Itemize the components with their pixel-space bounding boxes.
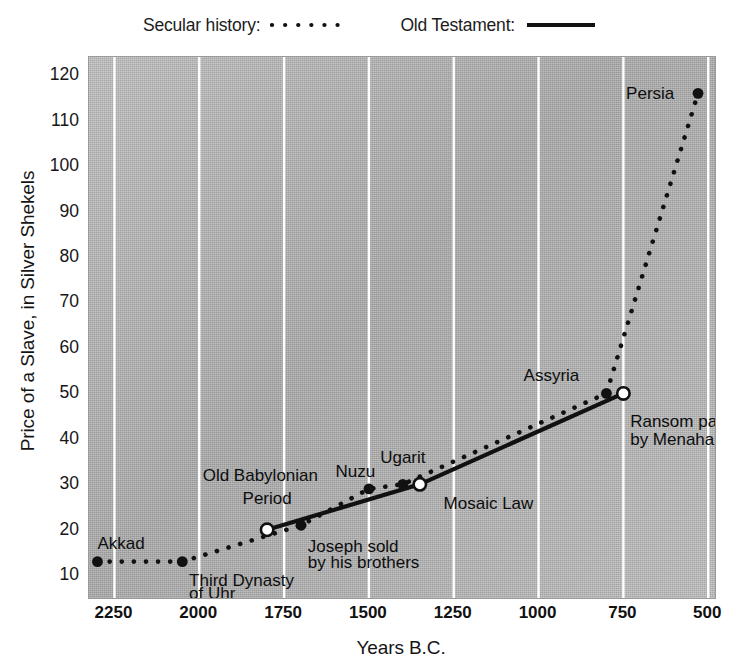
annotation-label: of Uhr [189,583,235,599]
x-tick-label: 2250 [95,603,133,623]
legend-swatch-solid-icon [525,20,597,30]
x-tick-label: 750 [608,603,636,623]
annotation-label: Persia [626,83,674,104]
data-point-filled [92,556,103,567]
x-tick-label: 2000 [179,603,217,623]
chart-root: Secular history: Old Testament: Price of… [0,0,740,672]
annotation-label: Nuzu [336,461,376,482]
x-tick-label: 1250 [434,603,472,623]
annotation-label: Period [243,488,292,509]
data-point-open [617,387,629,399]
y-tick-label: 40 [10,427,88,448]
chart-legend: Secular history: Old Testament: [0,10,740,40]
y-tick-label: 70 [10,291,88,312]
y-tick-label: 120 [10,64,88,85]
x-axis-title: Years B.C. [88,637,714,659]
y-tick-label: 30 [10,473,88,494]
data-point-filled [177,556,188,567]
legend-item-old-testament: Old Testament: [400,15,597,36]
plot-area: AkkadThird Dynastyof UhrOld BabylonianPe… [88,56,716,599]
plot-graphics [89,57,715,598]
data-point-open [414,478,426,490]
y-tick-label: 10 [10,564,88,585]
annotation-label: Mosaic Law [444,493,534,514]
y-tick-label: 110 [10,109,88,130]
y-tick-label: 20 [10,518,88,539]
legend-swatch-dotted-icon [270,20,342,30]
annotation-label: Old Babylonian [203,465,318,486]
x-tick-label: 1500 [349,603,387,623]
y-tick-label: 80 [10,246,88,267]
annotation-label: Ugarit [380,447,425,468]
y-tick-label: 100 [10,155,88,176]
annotation-label: by Menaham [630,429,716,450]
annotation-label: Assyria [524,365,580,386]
annotation-label: by his brothers [308,552,420,573]
data-point-open [261,524,273,536]
x-tick-label: 500 [693,603,721,623]
annotation-label: Akkad [97,533,144,554]
legend-item-secular-history: Secular history: [143,15,342,36]
x-tick-label: 1000 [519,603,557,623]
data-point-filled [693,88,704,99]
legend-label-old-testament: Old Testament: [400,15,515,36]
y-tick-label: 60 [10,336,88,357]
x-tick-label: 1750 [264,603,302,623]
y-tick-label: 50 [10,382,88,403]
data-point-filled [364,483,375,494]
y-axis-tick-labels: 120110100908070605040302010 [0,0,88,672]
legend-label-secular-history: Secular history: [143,15,260,36]
y-tick-label: 90 [10,200,88,221]
